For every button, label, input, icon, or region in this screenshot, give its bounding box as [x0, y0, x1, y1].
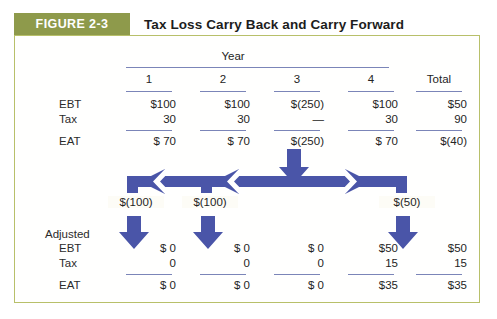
carry-back-arrowhead-1 [140, 169, 165, 194]
cell-adj-eat-y4: $35 [334, 279, 398, 291]
figure-container: FIGURE 2-3 Tax Loss Carry Back and Carry… [0, 0, 497, 319]
cell-adj-ebt-total: $50 [403, 242, 467, 254]
cell-adj-ebt-y3: $ 0 [260, 242, 324, 254]
figure-title: Tax Loss Carry Back and Carry Forward [144, 17, 404, 32]
adjusted-subtotal-rule-total [416, 274, 462, 275]
row-label-tax-adjusted: Tax [59, 257, 77, 269]
cell-adj-eat-y1: $ 0 [112, 279, 176, 291]
figure-panel: Year 1 2 3 4 Total EBT $100 $100 $(250) … [14, 35, 480, 303]
adjusted-subtotal-rule-1 [126, 274, 172, 275]
cell-adj-ebt-y1: $ 0 [112, 242, 176, 254]
cell-adj-ebt-y2: $ 0 [186, 242, 250, 254]
adjusted-subtotal-rule-2 [200, 274, 246, 275]
figure-number-tag: FIGURE 2-3 [14, 13, 130, 35]
row-label-ebt-adjusted: EBT [59, 242, 81, 254]
carry-forward-arrowhead [345, 169, 370, 194]
cell-adj-tax-y1: 0 [112, 257, 176, 269]
carry-label-year1: $(100) [108, 196, 164, 208]
cell-adj-eat-y3: $ 0 [260, 279, 324, 291]
cell-adj-tax-y4: 15 [334, 257, 398, 269]
cell-adj-tax-y3: 0 [260, 257, 324, 269]
carry-label-year4: $(50) [379, 196, 435, 208]
figure-banner: FIGURE 2-3 Tax Loss Carry Back and Carry… [14, 13, 480, 35]
carry-stub-year4 [396, 176, 407, 193]
row-group-label-adjusted: Adjusted [45, 228, 90, 240]
carry-stub-year1 [127, 176, 138, 193]
carry-stub-year2 [201, 176, 212, 193]
adjusted-subtotal-rule-4 [348, 274, 394, 275]
cell-adj-tax-y2: 0 [186, 257, 250, 269]
cell-adj-ebt-y4: $50 [334, 242, 398, 254]
cell-adj-tax-total: 15 [403, 257, 467, 269]
figure-table: Year 1 2 3 4 Total EBT $100 $100 $(250) … [15, 36, 481, 304]
row-label-eat-adjusted: EAT [59, 279, 81, 291]
adjusted-subtotal-rule-3 [274, 274, 320, 275]
cell-adj-eat-total: $35 [403, 279, 467, 291]
carry-label-year2: $(100) [182, 196, 238, 208]
carry-back-arrowhead-2 [214, 169, 239, 194]
cell-adj-eat-y2: $ 0 [186, 279, 250, 291]
